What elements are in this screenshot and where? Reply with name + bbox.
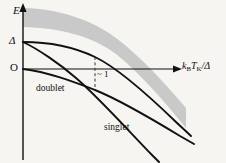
y-axis-label: E xyxy=(13,5,20,16)
crossover-annotation: ~ 1 xyxy=(97,70,109,79)
continuum-band xyxy=(23,8,186,128)
diagram-canvas xyxy=(0,0,226,163)
energy-diagram-figure: E Δ O kBTK/Δ ~ 1 doublet singlet xyxy=(0,0,226,163)
y-axis-arrowhead xyxy=(19,3,26,12)
curve-label-singlet: singlet xyxy=(104,123,129,133)
y-tick-label-delta: Δ xyxy=(9,35,15,46)
x-axis-arrowhead xyxy=(173,66,182,73)
y-tick-label-origin: O xyxy=(10,62,18,73)
curve-label-doublet: doublet xyxy=(36,84,65,94)
x-axis-label-over-delta: /Δ xyxy=(201,60,210,71)
x-axis-label: kBTK/Δ xyxy=(182,61,210,73)
